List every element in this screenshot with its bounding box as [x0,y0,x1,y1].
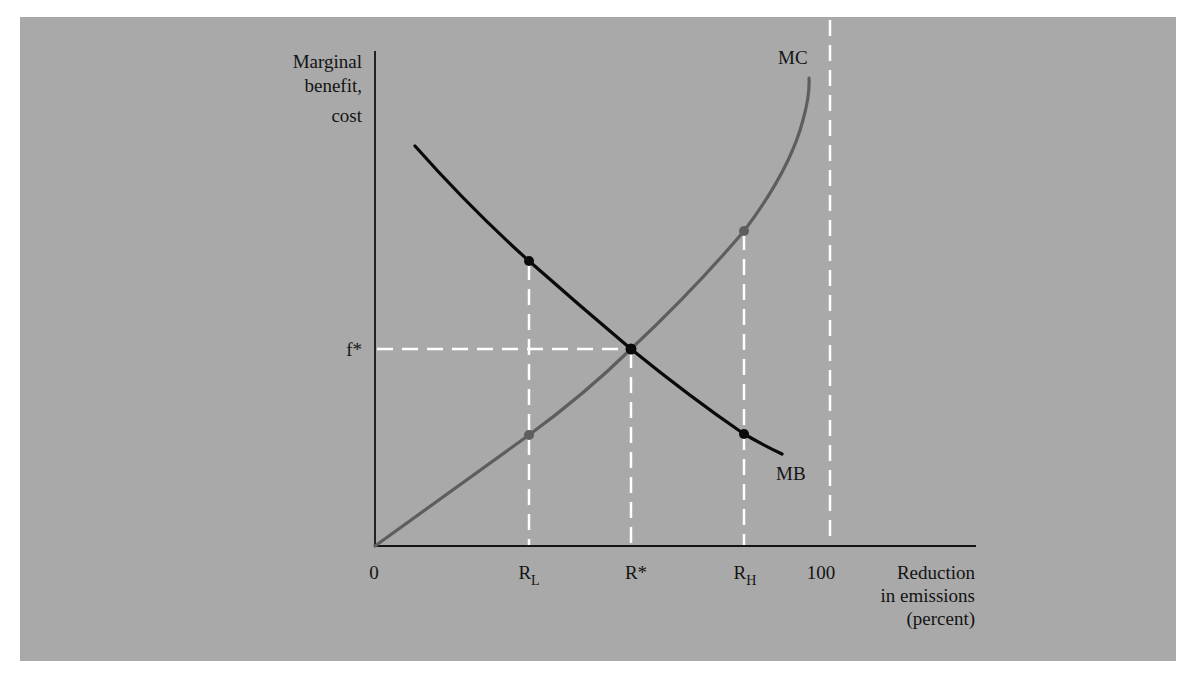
x-axis-label-line3: (percent) [906,608,975,630]
f-star-label: f* [346,339,362,360]
r-star-label: R* [625,562,647,583]
origin-label: 0 [369,562,379,583]
y-axis-label-line1: Marginal [293,51,362,72]
r-h-label-sub: H [746,573,756,588]
equilibrium-point [626,344,637,355]
x-axis-label-line2: in emissions [881,585,975,606]
r-l-label: RL [518,562,539,588]
y-axis-label-line2: benefit, [304,75,362,96]
x-axis-label-line1: Reduction [897,562,976,583]
y-axis-label-line3: cost [331,105,362,126]
mb-point-r-h [739,429,749,439]
mb-curve [415,146,782,454]
mc-label: MC [778,47,808,68]
r-h-label-main: R [734,562,747,583]
mb-point-r-l [524,256,534,266]
chart-svg: Marginal benefit, cost f* MC MB 0 RL R* … [0,0,1195,689]
mc-point-r-h [739,226,749,236]
hundred-label: 100 [807,562,836,583]
mb-label: MB [776,463,806,484]
mc-point-r-l [524,430,534,440]
r-l-label-sub: L [531,573,540,588]
r-h-label: RH [734,562,757,588]
r-l-label-main: R [518,562,531,583]
